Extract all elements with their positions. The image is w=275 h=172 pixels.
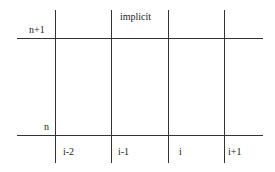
grid-line-i+1: [224, 10, 225, 163]
row-label-top: n+1: [29, 25, 45, 35]
time-level-line-top: [17, 38, 263, 39]
grid-line-i-1: [111, 10, 112, 163]
column-label-i+1: i+1: [228, 147, 241, 157]
grid-line-i-2: [55, 10, 56, 163]
row-label-bottom: n: [44, 122, 49, 132]
grid-line-i: [168, 10, 169, 163]
column-label-i-1: i-1: [118, 147, 129, 157]
scheme-label: implicit: [120, 12, 151, 22]
column-label-i: i: [179, 147, 182, 157]
column-label-i-2: i-2: [63, 147, 74, 157]
time-level-line-bottom: [17, 135, 263, 136]
